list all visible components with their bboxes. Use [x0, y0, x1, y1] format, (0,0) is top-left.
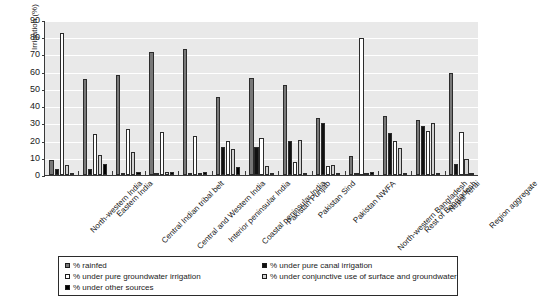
- bar: [259, 138, 263, 175]
- bar: [416, 120, 420, 175]
- bar: [270, 173, 274, 175]
- bar: [265, 166, 269, 175]
- bar: [388, 133, 392, 175]
- legend-label: % under pure canal irrigation: [270, 261, 372, 270]
- bar-group: [212, 21, 245, 175]
- legend-swatch-icon: [65, 263, 70, 268]
- bar: [165, 172, 169, 175]
- legend-item: % under other sources: [65, 282, 258, 293]
- bar: [203, 172, 207, 175]
- bar: [464, 159, 468, 175]
- legend-item: % under pure canal irrigation: [262, 260, 457, 271]
- plot-area: [44, 21, 478, 176]
- bar: [454, 164, 458, 175]
- bar: [316, 118, 320, 175]
- bar-group: [78, 21, 111, 175]
- y-tick-label: 70: [14, 50, 40, 59]
- bar-group: [178, 21, 211, 175]
- x-axis-tick-labels: North-western IndiaEastern IndiaCentral …: [44, 177, 478, 247]
- bar: [154, 173, 158, 175]
- bar: [149, 52, 153, 175]
- legend-swatch-icon: [65, 285, 70, 290]
- y-tick-label: 30: [14, 119, 40, 128]
- bar-group: [245, 21, 278, 175]
- y-tick-label: 10: [14, 154, 40, 163]
- bar: [116, 75, 120, 175]
- bar: [121, 173, 125, 175]
- bar: [83, 79, 87, 175]
- bar-group: [45, 21, 78, 175]
- bar: [436, 173, 440, 175]
- bar: [221, 147, 225, 175]
- bar: [70, 173, 74, 175]
- bar: [283, 85, 287, 175]
- bar: [331, 165, 335, 175]
- y-tick-label: 60: [14, 68, 40, 77]
- bar: [236, 167, 240, 175]
- legend-item: % rainfed: [65, 260, 258, 271]
- bar-group: [345, 21, 378, 175]
- bar: [60, 33, 64, 175]
- legend-item: % under conjunctive use of surface and g…: [262, 271, 457, 282]
- bar-group: [445, 21, 478, 175]
- x-tick-label: Region aggregate: [487, 179, 538, 230]
- bar: [421, 126, 425, 175]
- bar: [321, 123, 325, 175]
- bar: [364, 173, 368, 175]
- bar: [303, 173, 307, 175]
- bar: [393, 141, 397, 175]
- legend-swatch-icon: [65, 274, 70, 279]
- x-tick-label: Pakistan NWFA: [352, 179, 398, 225]
- bar: [469, 173, 473, 175]
- x-tick-label: North-western India: [88, 179, 144, 235]
- bar: [431, 123, 435, 175]
- bar: [326, 166, 330, 175]
- bar: [231, 149, 235, 175]
- legend-label: % under other sources: [73, 283, 154, 292]
- bar-group: [411, 21, 444, 175]
- bar: [403, 173, 407, 175]
- bar: [249, 78, 253, 175]
- legend-label: % rainfed: [73, 261, 107, 270]
- bar-group: [278, 21, 311, 175]
- x-tick-label: North-western Bangladesh: [396, 179, 469, 252]
- y-tick-label: 20: [14, 137, 40, 146]
- bar: [216, 97, 220, 175]
- bar: [354, 173, 358, 175]
- bar: [383, 116, 387, 175]
- bar: [370, 172, 374, 175]
- bar: [136, 172, 140, 175]
- bar: [160, 132, 164, 175]
- bar-groups: [45, 21, 478, 175]
- legend-label: % under conjunctive use of surface and g…: [270, 272, 457, 281]
- y-tick-label: 40: [14, 102, 40, 111]
- legend-label: % under pure groundwater irrigation: [73, 272, 201, 281]
- bar: [449, 73, 453, 175]
- bar: [193, 136, 197, 175]
- bar: [126, 129, 130, 175]
- bar: [103, 164, 107, 175]
- bar: [359, 38, 363, 175]
- bar: [298, 140, 302, 175]
- bar-group: [312, 21, 345, 175]
- legend-grid: % rainfed% under pure canal irrigation% …: [65, 260, 451, 293]
- bar: [88, 169, 92, 175]
- bar: [349, 156, 353, 175]
- bar: [398, 148, 402, 175]
- bar: [293, 162, 297, 175]
- y-tick-label: 0: [14, 171, 40, 180]
- bar: [459, 132, 463, 175]
- bar: [226, 141, 230, 175]
- bar: [93, 134, 97, 175]
- legend-item: % under pure groundwater irrigation: [65, 271, 258, 282]
- bar: [65, 165, 69, 175]
- bar-group: [112, 21, 145, 175]
- bar: [336, 173, 340, 175]
- y-tick-label: 80: [14, 33, 40, 42]
- bar: [55, 169, 59, 175]
- bar: [188, 173, 192, 175]
- bar-group: [378, 21, 411, 175]
- bar: [98, 155, 102, 175]
- bar: [198, 173, 202, 175]
